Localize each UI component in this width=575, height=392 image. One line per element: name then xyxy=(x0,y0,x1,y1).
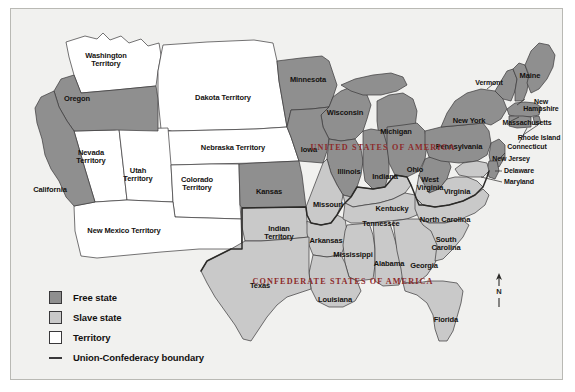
region-label-tennessee: Tennessee xyxy=(362,220,399,228)
region-label-rhode-island: Rhode Island xyxy=(518,134,561,141)
region-label-utah-territory: UtahTerritory xyxy=(123,167,152,182)
region-label-new-hampshire: NewHampshire xyxy=(523,98,558,112)
region-label-massachusetts: Massachusetts xyxy=(503,119,552,126)
region-shape-maryland xyxy=(455,161,489,177)
region-shape-kansas xyxy=(239,161,306,208)
region-label-georgia: Georgia xyxy=(410,262,438,270)
region-label-south-carolina: SouthCarolina xyxy=(431,236,460,251)
region-label-dakota-territory: Dakota Territory xyxy=(195,94,251,102)
region-label-delaware: Delaware xyxy=(504,167,534,174)
region-shape-utah-territory xyxy=(119,128,173,202)
region-label-illinois: Illinois xyxy=(338,168,361,176)
region-shape-florida xyxy=(403,281,463,341)
region-label-arkansas: Arkansas xyxy=(310,237,343,245)
legend-swatch-boundary-line xyxy=(49,351,62,364)
region-label-kansas: Kansas xyxy=(256,188,282,196)
legend-item-boundary[interactable]: Union-Confederacy boundary xyxy=(49,349,299,366)
region-label-vermont: Vermont xyxy=(475,79,502,86)
region-label-washington-territory: WashingtonTerritory xyxy=(85,52,127,67)
region-label-connecticut: Connecticut xyxy=(507,143,546,150)
region-label-maine: Maine xyxy=(520,72,541,80)
legend-item-free-state[interactable]: Free state xyxy=(49,289,299,306)
region-label-missouri: Missouri xyxy=(313,201,343,209)
nation-label-united-states: UNITED STATES OF AMERICA xyxy=(310,143,455,152)
region-label-indiana: Indiana xyxy=(372,173,398,181)
region-label-florida: Florida xyxy=(434,316,458,324)
region-label-wisconsin: Wisconsin xyxy=(327,109,364,117)
legend-label-slave-state: Slave state xyxy=(73,312,122,323)
region-label-nebraska-territory: Nebraska Territory xyxy=(201,144,265,152)
nation-label-confederate-states: CONFEDERATE STATES OF AMERICA xyxy=(252,277,433,286)
legend-item-territory[interactable]: Territory xyxy=(49,329,299,346)
map-legend: Free state Slave state Territory Union-C… xyxy=(49,289,299,369)
region-label-california: California xyxy=(33,186,67,194)
compass-direction-label: N xyxy=(491,287,507,296)
map-frame: WashingtonTerritoryOregonNevadaTerritory… xyxy=(10,8,563,380)
region-label-mississippi: Mississippi xyxy=(333,251,372,259)
legend-item-slave-state[interactable]: Slave state xyxy=(49,309,299,326)
region-label-new-mexico-territory: New Mexico Territory xyxy=(87,227,160,235)
region-label-nevada-territory: NevadaTerritory xyxy=(76,149,105,164)
region-label-kentucky: Kentucky xyxy=(376,205,409,213)
region-shape-maine xyxy=(525,43,555,93)
compass-north-arrow: N xyxy=(491,271,507,313)
region-label-north-carolina: North Carolina xyxy=(420,216,471,224)
region-label-ohio: Ohio xyxy=(407,166,424,174)
region-label-new-york: New York xyxy=(453,117,486,125)
legend-swatch-free-state xyxy=(49,291,62,304)
region-label-maryland: Maryland xyxy=(504,178,534,185)
region-label-alabama: Alabama xyxy=(374,260,405,268)
region-label-west-virginia: WestVirginia xyxy=(417,176,444,191)
region-label-michigan: Michigan xyxy=(380,128,412,136)
legend-swatch-slave-state xyxy=(49,311,62,324)
region-label-minnesota: Minnesota xyxy=(290,76,326,84)
region-label-colorado-territory: ColoradoTerritory xyxy=(181,176,213,191)
legend-label-free-state: Free state xyxy=(73,292,117,303)
legend-label-boundary: Union-Confederacy boundary xyxy=(73,352,204,363)
legend-swatch-territory xyxy=(49,331,62,344)
region-label-indian-territory: IndianTerritory xyxy=(264,225,293,240)
region-label-new-jersey: New Jersey xyxy=(492,155,530,162)
region-label-oregon: Oregon xyxy=(64,95,90,103)
region-shape-dakota-territory xyxy=(158,40,287,131)
region-label-virginia: Virginia xyxy=(444,188,471,196)
region-label-louisiana: Louisiana xyxy=(318,296,352,304)
legend-label-territory: Territory xyxy=(73,332,110,343)
